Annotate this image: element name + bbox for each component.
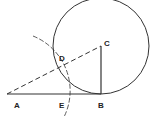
label-b: B	[98, 101, 104, 110]
label-a: A	[14, 101, 20, 110]
label-c: C	[104, 39, 110, 48]
geometry-diagram: A B C D E	[0, 0, 152, 123]
label-d: D	[59, 54, 65, 63]
label-e: E	[59, 101, 65, 110]
